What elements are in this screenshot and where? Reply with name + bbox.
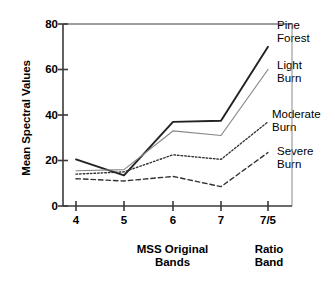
axes-group	[58, 24, 292, 211]
plot-area	[0, 0, 335, 282]
series-line-pine-forest	[76, 47, 268, 176]
series-lines-group	[76, 47, 268, 187]
spectral-values-line-chart: Mean Spectral Values 80 60 40 20 0 4 5 6…	[0, 0, 335, 282]
series-line-moderate-burn	[76, 122, 268, 174]
